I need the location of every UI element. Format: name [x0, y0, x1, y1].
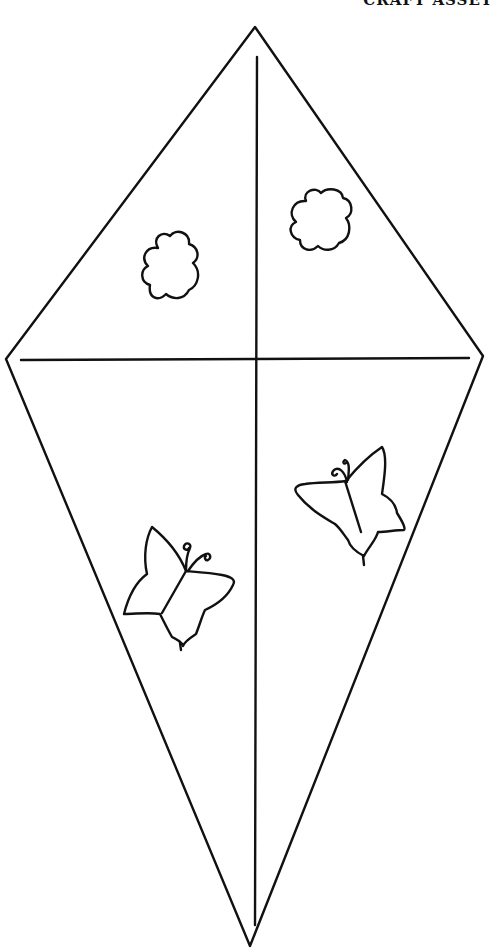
flower-left-icon [142, 232, 198, 298]
flower-right-icon [291, 189, 352, 250]
kite-drawing [0, 0, 495, 948]
kite-outline [6, 27, 483, 946]
butterfly-left-icon [124, 527, 234, 650]
kite-horizontal-spar [21, 358, 469, 360]
butterfly-right-icon [295, 447, 404, 565]
kite-vertical-spar [255, 57, 257, 925]
